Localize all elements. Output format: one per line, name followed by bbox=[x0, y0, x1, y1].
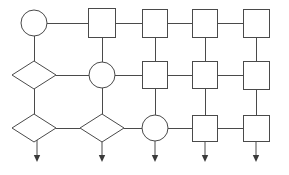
diamond-node-r3c2[interactable] bbox=[80, 114, 124, 142]
diamond-node-r3c1[interactable] bbox=[12, 114, 56, 142]
diamond-node-r2c1[interactable] bbox=[12, 61, 56, 89]
arrow-head-out2 bbox=[99, 155, 105, 162]
diagram-canvas: Layered grid network diagram Three-row b… bbox=[0, 0, 289, 175]
square-node-r2c5[interactable] bbox=[243, 61, 269, 89]
square-node-r1c5[interactable] bbox=[243, 9, 269, 37]
square-node-r2c4[interactable] bbox=[193, 62, 218, 89]
circle-node-r1c1[interactable] bbox=[21, 10, 47, 36]
circle-node-r2c2[interactable] bbox=[89, 62, 115, 88]
square-node-r1c3[interactable] bbox=[143, 9, 168, 37]
circle-node-r3c3[interactable] bbox=[142, 115, 168, 141]
square-node-r3c5[interactable] bbox=[243, 115, 269, 141]
square-node-r1c2[interactable] bbox=[89, 9, 116, 38]
arrow-head-out4 bbox=[202, 155, 208, 162]
square-node-r1c4[interactable] bbox=[193, 9, 218, 37]
square-node-r2c3[interactable] bbox=[143, 62, 168, 89]
square-node-r3c4[interactable] bbox=[193, 115, 218, 141]
arrow-head-out5 bbox=[253, 155, 259, 162]
arrow-head-out3 bbox=[152, 155, 158, 162]
network-grid-diagram: Layered grid network diagram Three-row b… bbox=[0, 0, 289, 175]
arrow-head-out1 bbox=[34, 155, 40, 162]
